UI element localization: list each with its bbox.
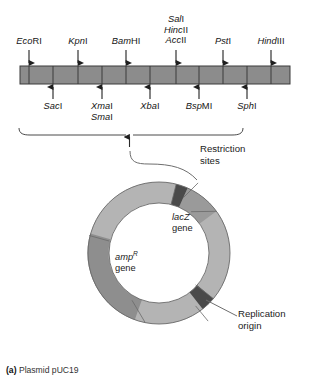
replication-origin-line-1: Replication (238, 308, 285, 320)
plasmid-puc19-figure: EcoRI KpnI BamHI SalI HincII AccII PstI … (0, 0, 313, 381)
figure-caption: (a) Plasmid pUC19 (6, 365, 79, 375)
amp-gene-italic: amp (115, 252, 133, 262)
replication-origin-line-2: origin (238, 320, 285, 332)
restriction-map-bar (20, 66, 290, 84)
restriction-sites-line-1: Restriction (200, 143, 245, 155)
restriction-sites-band (174, 194, 184, 197)
lacz-gene-label: lacZ gene (172, 212, 193, 233)
plasmid-ring (88, 182, 237, 324)
amp-gene-superscript: R (133, 250, 138, 257)
replication-origin-band (196, 292, 205, 301)
bottom-site-arrows (53, 87, 247, 99)
restriction-sites-leader (130, 151, 197, 180)
lacz-gene-italic: lacZ (172, 212, 190, 222)
restriction-sites-callout: Restriction sites (200, 143, 245, 166)
restriction-sites-line-2: sites (200, 155, 245, 167)
figure-caption-text: Plasmid pUC19 (19, 365, 79, 375)
top-site-arrows (29, 50, 271, 63)
replication-origin-leader (206, 300, 237, 316)
replication-origin-callout: Replication origin (238, 308, 285, 331)
lacz-gene-rest: gene (172, 223, 193, 234)
amp-gene-rest: gene (115, 263, 138, 274)
figure-caption-label: (a) (6, 365, 17, 375)
amp-gene-label: ampR gene (115, 252, 138, 273)
